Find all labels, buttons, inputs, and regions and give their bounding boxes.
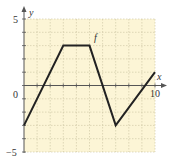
- y-tick-label-5: 5: [13, 14, 18, 25]
- y-axis-label: y: [28, 7, 34, 18]
- y-tick-label-minus-5: −5: [6, 147, 17, 158]
- x-axis-label: x: [156, 71, 162, 82]
- x-tick-label-10: 10: [150, 88, 160, 99]
- function-graph: y 5 0 −5 10 x f: [0, 0, 172, 162]
- origin-label: 0: [13, 89, 18, 100]
- x-axis-arrow-icon: [161, 83, 167, 88]
- y-axis-arrow-icon: [22, 6, 27, 12]
